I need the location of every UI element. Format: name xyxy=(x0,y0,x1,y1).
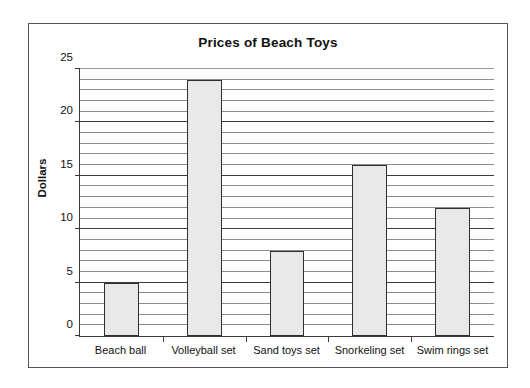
y-axis-tick-label: 10 xyxy=(60,211,73,223)
bar-series xyxy=(80,69,494,336)
x-axis-ticks xyxy=(80,336,494,343)
x-axis-category-label: Volleyball set xyxy=(162,344,245,356)
bar-slot xyxy=(163,69,246,336)
bar xyxy=(104,283,139,336)
plot-area: 0510152025 xyxy=(79,69,494,337)
y-axis-tick-label: 0 xyxy=(67,318,73,330)
x-axis-tick-mark xyxy=(411,336,412,342)
x-axis-category-label: Swim rings set xyxy=(411,344,494,356)
chart-title: Prices of Beach Toys xyxy=(29,35,507,50)
bar xyxy=(435,208,470,336)
bar-slot xyxy=(246,69,329,336)
bar-slot xyxy=(328,69,411,336)
bar xyxy=(270,251,305,336)
bar-slot xyxy=(80,69,163,336)
chart-frame: Prices of Beach Toys Dollars 0510152025 … xyxy=(28,23,508,368)
x-axis-category-label: Sand toys set xyxy=(245,344,328,356)
bar-slot xyxy=(411,69,494,336)
x-axis-category-label: Snorkeling set xyxy=(328,344,411,356)
y-axis-label: Dollars xyxy=(36,143,48,213)
x-axis-category-label: Beach ball xyxy=(79,344,162,356)
x-axis-tick-mark xyxy=(246,336,247,342)
y-axis-tick-label: 20 xyxy=(60,104,73,116)
y-axis-label-container: Dollars xyxy=(31,24,53,367)
bar xyxy=(187,80,222,336)
x-axis-labels: Beach ballVolleyball setSand toys setSno… xyxy=(79,344,494,356)
x-axis-tick-mark xyxy=(163,336,164,342)
y-axis-tick-label: 25 xyxy=(60,51,73,63)
y-axis-tick-label: 15 xyxy=(60,158,73,170)
x-axis-tick-mark xyxy=(328,336,329,342)
bar xyxy=(352,165,387,336)
y-axis-tick-label: 5 xyxy=(67,265,73,277)
